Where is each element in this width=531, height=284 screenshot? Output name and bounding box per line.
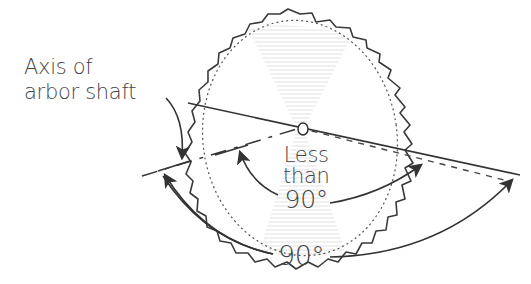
less-label-line3: 90° — [283, 187, 330, 213]
blade-shading — [248, 25, 352, 256]
axis-label-line1: Axis of — [24, 55, 136, 80]
less-than-90-arc-right — [330, 165, 421, 203]
less-than-90-arc-left — [240, 152, 278, 195]
blade-face-line — [188, 103, 520, 175]
arbor-axis-line-solid-segment-2 — [215, 145, 248, 155]
axis-of-arbor-shaft-label: Axis of arbor shaft — [24, 55, 136, 105]
blade-center-hub — [298, 123, 308, 135]
less-label-line1: Less — [283, 145, 330, 166]
axis-label-line2: arbor shaft — [24, 80, 136, 105]
ninety-arc-left-visible — [165, 175, 273, 254]
less-label-line2: than — [283, 166, 330, 187]
axis-pointer-arrow — [166, 98, 182, 158]
ninety-arc-left — [163, 176, 273, 254]
arbor-axis-line-solid-segment — [158, 161, 190, 171]
saw-blade-diagram — [0, 0, 531, 284]
ninety-degree-label: 90° — [278, 242, 324, 269]
less-than-90-label: Less than 90° — [283, 145, 330, 213]
ninety-arc-right — [330, 180, 512, 257]
